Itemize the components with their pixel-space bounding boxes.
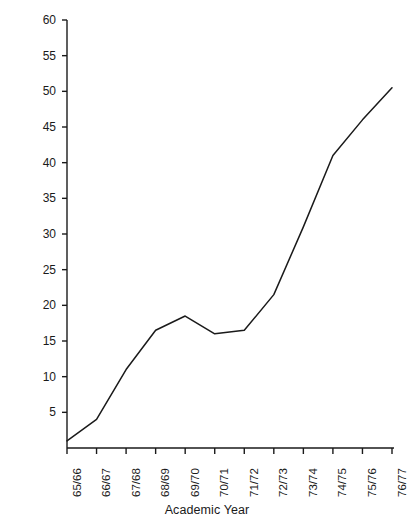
y-tick-label: 20 (26, 299, 56, 311)
y-tick-label: 5 (26, 406, 56, 418)
x-axis-title: Academic Year (0, 503, 414, 517)
y-tick-marks (62, 20, 67, 412)
y-tick-label: 45 (26, 121, 56, 133)
line-chart: Number of Pupils (in thousands) 51015202… (0, 0, 414, 527)
data-line-group (67, 88, 392, 441)
y-tick-label: 55 (26, 50, 56, 62)
x-tick-label: 76/77 (397, 468, 409, 497)
x-tick-label: 67/68 (131, 468, 143, 497)
x-tick-label: 74/75 (337, 468, 349, 497)
x-tick-label: 73/74 (308, 468, 320, 497)
axes (67, 20, 394, 448)
y-tick-label: 40 (26, 157, 56, 169)
y-tick-label: 25 (26, 264, 56, 276)
y-tick-label: 30 (26, 228, 56, 240)
plot-area (0, 0, 414, 527)
y-tick-label: 35 (26, 192, 56, 204)
x-tick-label: 71/72 (249, 468, 261, 497)
x-tick-label: 66/67 (101, 468, 113, 497)
x-tick-marks (67, 448, 392, 454)
x-tick-label: 65/66 (72, 468, 84, 497)
x-tick-label: 68/69 (160, 468, 172, 497)
y-tick-label: 15 (26, 335, 56, 347)
x-tick-label: 69/70 (190, 468, 202, 497)
y-tick-label: 10 (26, 371, 56, 383)
x-tick-label: 72/73 (278, 468, 290, 497)
x-tick-label: 75/76 (367, 468, 379, 497)
y-tick-label: 60 (26, 14, 56, 26)
data-line (67, 88, 392, 441)
x-tick-label: 70/71 (219, 468, 231, 497)
y-tick-label: 50 (26, 85, 56, 97)
